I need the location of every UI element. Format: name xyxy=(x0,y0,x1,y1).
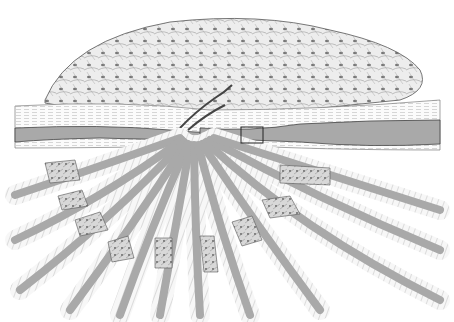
anatomical-illustration xyxy=(0,0,454,322)
illustration-svg xyxy=(0,0,454,322)
